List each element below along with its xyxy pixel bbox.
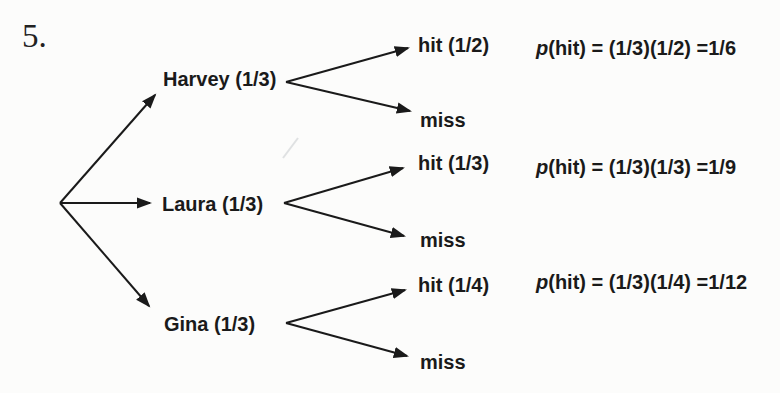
outcome-label-laura-hit: hit (1/3) xyxy=(418,152,489,174)
node-label-harvey: Harvey (1/3) xyxy=(163,68,276,90)
scanned-tree-diagram-page: 5. Harvey (1/3) Laura (1/3) Gina (1/3) h… xyxy=(0,0,780,393)
p-symbol: p xyxy=(536,37,548,59)
p-symbol: p xyxy=(536,271,548,293)
scan-artifact-line xyxy=(283,138,298,158)
node-label-laura: Laura (1/3) xyxy=(162,193,263,215)
p-symbol: p xyxy=(536,156,548,178)
problem-number: 5. xyxy=(22,18,47,54)
arrow-laura-to-hit xyxy=(284,168,403,203)
arrow-root-to-harvey xyxy=(60,95,155,203)
outcome-label-harvey-miss: miss xyxy=(420,109,466,131)
outcome-label-laura-miss: miss xyxy=(420,229,466,251)
arrow-root-to-gina xyxy=(60,203,149,306)
formula-text: (hit) = (1/3)(1/4) =1/12 xyxy=(548,271,747,293)
arrow-laura-to-miss xyxy=(284,203,404,236)
outcome-label-gina-hit: hit (1/4) xyxy=(418,274,489,296)
probability-formula-gina: p(hit) = (1/3)(1/4) =1/12 xyxy=(536,271,747,293)
node-label-gina: Gina (1/3) xyxy=(164,313,255,335)
outcome-label-harvey-hit: hit (1/2) xyxy=(418,34,489,56)
arrow-harvey-to-hit xyxy=(286,48,408,82)
outcome-label-gina-miss: miss xyxy=(420,351,466,373)
formula-text: (hit) = (1/3)(1/3) =1/9 xyxy=(548,156,736,178)
probability-formula-harvey: p(hit) = (1/3)(1/2) =1/6 xyxy=(536,37,736,59)
formula-text: (hit) = (1/3)(1/2) =1/6 xyxy=(548,37,736,59)
probability-formula-laura: p(hit) = (1/3)(1/3) =1/9 xyxy=(536,156,736,178)
arrow-gina-to-hit xyxy=(286,290,405,323)
arrow-gina-to-miss xyxy=(286,323,407,356)
arrow-harvey-to-miss xyxy=(286,82,410,111)
